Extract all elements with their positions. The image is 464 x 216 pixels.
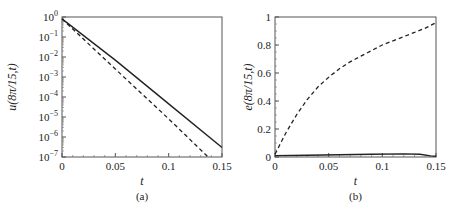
y-tick-label: 10−7 xyxy=(38,149,58,163)
y-axis-label: e(8π/15,t) xyxy=(241,63,255,110)
plot-frame-b xyxy=(275,17,436,157)
series-dashed-line xyxy=(62,19,208,157)
x-tick-label: 0 xyxy=(272,160,278,172)
y-tick-label: 0 xyxy=(266,151,272,163)
series-solid-line xyxy=(62,19,222,148)
x-tick-label: 0.1 xyxy=(375,160,389,172)
x-tick-label: 0.05 xyxy=(106,160,126,172)
y-tick-label: 10−4 xyxy=(38,89,58,103)
x-tick-label: 0.1 xyxy=(162,160,176,172)
x-tick-label: 0.15 xyxy=(212,160,232,172)
y-tick-label: 10−1 xyxy=(38,29,58,43)
y-tick-label: 10−6 xyxy=(38,129,58,143)
y-tick-label: 10−5 xyxy=(38,109,58,123)
figure: 00.050.10.1510010−110−210−310−410−510−61… xyxy=(0,0,464,216)
y-tick-label: 10−2 xyxy=(38,49,58,63)
x-tick-label: 0.05 xyxy=(319,160,339,172)
y-tick-label: 0.8 xyxy=(257,39,271,51)
y-tick-label: 1 xyxy=(266,11,272,23)
x-axis-label: t xyxy=(140,174,144,188)
y-tick-label: 100 xyxy=(43,9,58,23)
y-axis-label: u(8π/15,t) xyxy=(5,63,19,111)
y-tick-label: 0.6 xyxy=(257,67,271,79)
panel-caption: (a) xyxy=(136,190,149,203)
x-tick-label: 0.15 xyxy=(426,160,446,172)
x-axis-label: t xyxy=(354,174,358,188)
panel-caption: (b) xyxy=(349,190,362,203)
y-tick-label: 0.4 xyxy=(257,95,271,107)
y-tick-label: 0.2 xyxy=(257,123,271,135)
y-tick-label: 10−3 xyxy=(38,69,58,83)
series-dashed-line xyxy=(275,23,436,155)
series-solid-line xyxy=(275,154,436,156)
x-tick-label: 0 xyxy=(59,160,65,172)
